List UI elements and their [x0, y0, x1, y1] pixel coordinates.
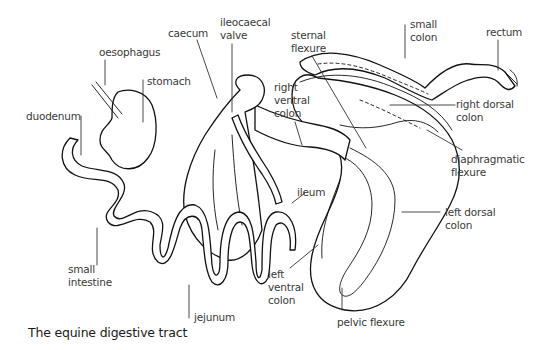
- label-left-ventral-colon: left ventral colon: [268, 268, 304, 307]
- label-right-dorsal-colon: right dorsal colon: [456, 98, 514, 124]
- label-small-intestine: small intestine: [68, 263, 112, 289]
- label-diaphragmatic-flexure: diaphragmatic flexure: [451, 153, 525, 179]
- label-ileocaecal-valve: ileocaecal valve: [220, 16, 271, 42]
- label-caecum: caecum: [168, 27, 208, 40]
- stomach: [92, 82, 156, 169]
- label-duodenum: duodenum: [26, 110, 81, 123]
- label-left-dorsal-colon: left dorsal colon: [445, 206, 495, 232]
- label-sternal-flexure: sternal flexure: [291, 29, 326, 55]
- label-right-ventral-colon: right ventral colon: [274, 81, 310, 120]
- figure-caption: The equine digestive tract: [28, 325, 187, 340]
- label-small-colon: small colon: [410, 18, 437, 44]
- label-oesophagus: oesophagus: [99, 46, 160, 59]
- label-stomach: stomach: [147, 75, 191, 88]
- label-ileum: ileum: [297, 186, 325, 199]
- label-rectum: rectum: [486, 26, 522, 39]
- label-jejunum: jejunum: [194, 311, 235, 324]
- label-pelvic-flexure: pelvic flexure: [337, 316, 405, 329]
